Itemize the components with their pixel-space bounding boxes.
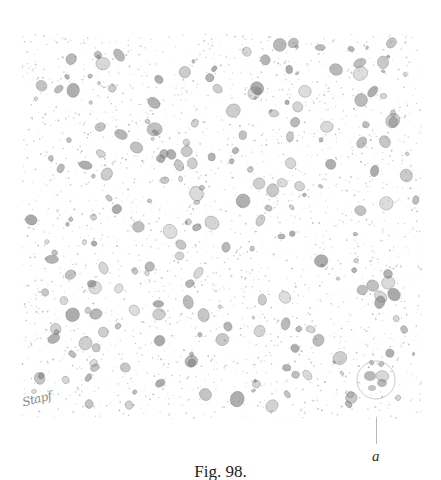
- microscopic-field-illustration: [22, 34, 422, 419]
- figure-caption: Fig. 98.: [0, 462, 441, 480]
- stippled-cell-drawing: [22, 34, 422, 419]
- figure-98: Stapf a Fig. 98.: [0, 0, 441, 480]
- label-leader-line: [376, 418, 377, 444]
